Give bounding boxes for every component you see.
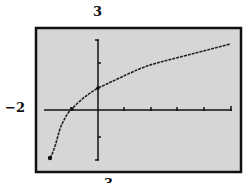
endpoint-marker	[48, 156, 52, 160]
x-intercept-marker	[70, 107, 74, 111]
graph-screen	[0, 0, 246, 183]
y-intercept-marker	[96, 86, 100, 90]
